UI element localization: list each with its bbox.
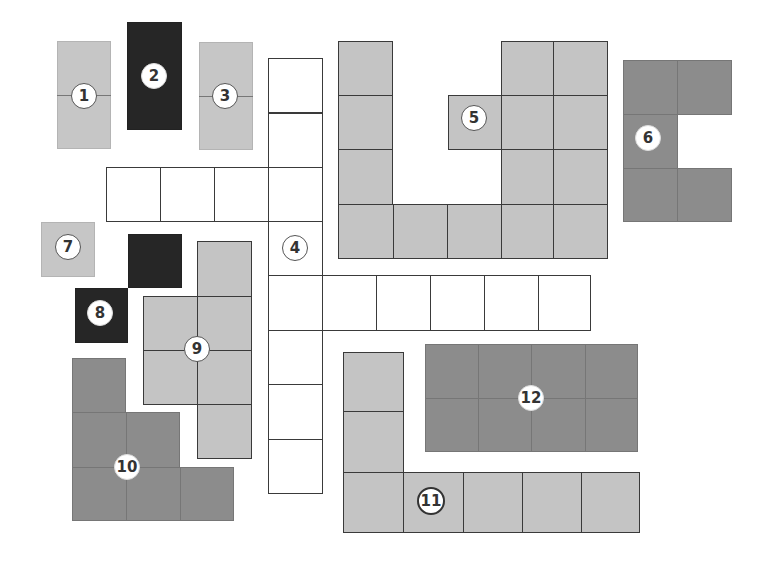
piece-10-cell: [180, 467, 234, 521]
piece-5-cell: [501, 95, 554, 150]
piece-5-cell: [393, 204, 448, 259]
piece-4-cell: [268, 384, 323, 440]
piece-11-cell: [343, 472, 404, 533]
piece-12-cell: [425, 344, 479, 399]
piece-4-cell: [268, 330, 323, 385]
piece-5-cell: [501, 204, 554, 259]
piece-12-cell: [425, 398, 479, 452]
piece-4-badge: 4: [282, 235, 308, 261]
piece-9-cell: [197, 404, 252, 459]
piece-8-badge: 8: [87, 300, 113, 326]
piece-5-badge: 5: [461, 105, 487, 131]
piece-5-cell: [553, 41, 608, 96]
piece-4-cell: [268, 167, 323, 222]
piece-4-cell: [268, 275, 323, 331]
piece-12-cell: [585, 398, 638, 452]
piece-11-cell: [343, 352, 404, 412]
piece-10-badge: 10: [114, 454, 140, 480]
piece-4-cell: [160, 167, 215, 222]
piece-11-cell: [522, 472, 582, 533]
piece-12-cell: [585, 344, 638, 399]
piece-4-cell: [268, 58, 323, 113]
piece-5-cell: [338, 149, 393, 205]
piece-4-cell: [214, 167, 269, 222]
piece-5-cell: [553, 204, 608, 259]
piece-5-cell: [501, 41, 554, 96]
piece-1-badge: 1: [71, 83, 97, 109]
piece-4-cell: [106, 167, 161, 222]
piece-4-cell: [322, 275, 377, 331]
piece-11-cell: [343, 411, 404, 473]
piece-9-badge: 9: [184, 336, 210, 362]
piece-4-cell: [484, 275, 539, 331]
piece-6-badge: 6: [635, 125, 661, 151]
piece-3-badge: 3: [212, 83, 238, 109]
piece-5-cell: [338, 41, 393, 96]
piece-6-cell: [677, 168, 732, 222]
piece-8-cell: [128, 234, 182, 288]
piece-6-cell: [623, 60, 678, 115]
piece-4-cell: [538, 275, 591, 331]
piece-2-badge: 2: [141, 63, 167, 89]
piece-7-badge: 7: [55, 234, 81, 260]
piece-5-cell: [501, 149, 554, 205]
piece-4-cell: [376, 275, 431, 331]
piece-11-badge: 11: [417, 487, 445, 515]
piece-5-cell: [447, 204, 502, 259]
piece-6-cell: [623, 168, 678, 222]
piece-6-cell: [677, 60, 732, 115]
piece-5-cell: [553, 95, 608, 150]
piece-11-cell: [581, 472, 640, 533]
piece-12-badge: 12: [518, 385, 544, 411]
piece-5-cell: [338, 95, 393, 150]
piece-5-cell: [553, 149, 608, 205]
piece-4-cell: [268, 439, 323, 494]
piece-5-cell: [338, 204, 394, 259]
piece-4-cell: [268, 113, 323, 168]
piece-11-cell: [463, 472, 523, 533]
piece-4-cell: [430, 275, 485, 331]
piece-9-cell: [197, 241, 252, 297]
piece-10-cell: [72, 358, 126, 413]
